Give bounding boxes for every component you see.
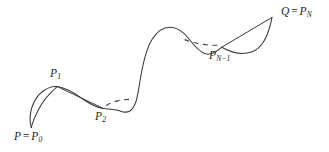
label-p2-subscript: 2 [102,115,106,124]
label-control-point-n-minus-1: PN−1 [209,50,230,62]
chord-pn-1-to-q [222,17,272,47]
label-control-point-2: P2 [95,111,106,123]
chord-p1-to-p2 [57,87,103,109]
label-end-point: Q=PN [281,6,312,18]
end-hook-curve [222,17,272,53]
label-p1-subscript: 1 [57,72,61,81]
label-end-subscript: N [307,10,312,19]
label-control-point-1: P1 [50,68,61,80]
label-start-equals: = [21,130,31,142]
label-pn1-subscript: N−1 [216,54,230,63]
label-end-second-base: P [299,5,306,17]
label-start-subscript: 0 [38,135,42,144]
label-end-equals: = [290,5,300,17]
dashed-segment-left [106,99,133,105]
start-cusp-curve [31,87,57,128]
spline-curve-figure: P=P0 P1 P2 PN−1 Q=PN [0,0,329,152]
label-end-base: Q [281,5,290,17]
label-start-point: P=P0 [14,131,42,143]
